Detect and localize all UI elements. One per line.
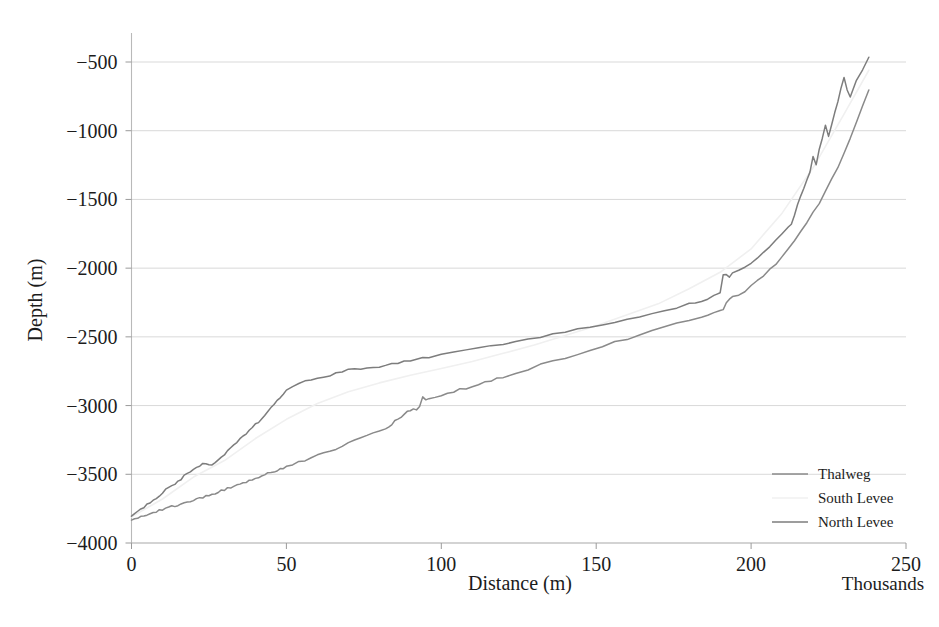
- y-tick-label: −1000: [66, 120, 117, 142]
- legend-label-south-levee: South Levee: [818, 490, 894, 506]
- series-line-thalweg: [132, 90, 869, 520]
- legend-label-thalweg: Thalweg: [818, 466, 871, 482]
- x-tick-label: 0: [127, 553, 137, 575]
- x-tick-label: 200: [736, 553, 766, 575]
- y-tick-marks: [126, 62, 132, 543]
- x-tick-label: 250: [891, 553, 921, 575]
- y-tick-label: −1500: [66, 188, 117, 210]
- legend: ThalwegSouth LeveeNorth Levee: [772, 466, 894, 530]
- y-tick-label: −500: [76, 51, 117, 73]
- x-axis-unit-note: Thousands: [842, 573, 924, 594]
- data-series: [132, 57, 869, 520]
- legend-label-north-levee: North Levee: [818, 514, 894, 530]
- x-tick-marks: [132, 543, 907, 549]
- series-line-south-levee: [132, 70, 869, 517]
- y-tick-label: −3500: [66, 463, 117, 485]
- line-chart: −500−1000−1500−2000−2500−3000−3500−4000 …: [0, 0, 939, 627]
- x-axis-title: Distance (m): [468, 572, 572, 595]
- y-tick-label: −3000: [66, 395, 117, 417]
- gridlines: [132, 62, 907, 543]
- y-axis-title: Depth (m): [24, 259, 47, 342]
- x-tick-label: 100: [426, 553, 456, 575]
- y-tick-labels: −500−1000−1500−2000−2500−3000−3500−4000: [66, 51, 117, 554]
- y-tick-label: −4000: [66, 532, 117, 554]
- y-tick-label: −2500: [66, 326, 117, 348]
- y-tick-label: −2000: [66, 257, 117, 279]
- chart-container: −500−1000−1500−2000−2500−3000−3500−4000 …: [0, 0, 939, 627]
- x-tick-label: 150: [581, 553, 611, 575]
- x-tick-label: 50: [276, 553, 296, 575]
- axis-lines: [132, 33, 907, 543]
